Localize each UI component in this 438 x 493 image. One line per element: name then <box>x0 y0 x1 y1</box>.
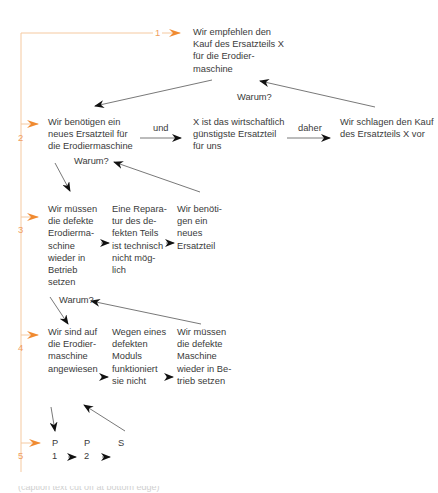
level-number-1: 1 <box>155 27 160 38</box>
question-l4: Warum? <box>59 294 94 306</box>
node-l3-restart: Wir müssen die defekte Erodierma- schine… <box>48 203 97 288</box>
caption-clipped: (caption text cut off at bottom edge) <box>18 486 398 492</box>
level-number-2: 2 <box>18 132 23 143</box>
connector-und: und <box>153 123 169 133</box>
node-l2-conclusion: Wir schlagen den Kauf des Ersatzteils X … <box>340 116 434 140</box>
node-l5-p1: P 1 <box>52 437 58 463</box>
level-number-5: 5 <box>18 450 23 461</box>
node-l2-need: Wir benötigen ein neues Ersatzteil für d… <box>48 116 133 153</box>
level-number-4: 4 <box>18 342 23 353</box>
node-l1-recommendation: Wir empfehlen den Kauf des Ersatzteils X… <box>193 26 284 75</box>
node-l5-p2: P 2 <box>84 437 90 463</box>
node-l4-dependent: Wir sind auf die Erodier- maschine angew… <box>48 326 98 375</box>
level-number-3: 3 <box>18 224 23 235</box>
node-l5-s: S <box>118 437 124 450</box>
caption-text: (caption text cut off at bottom edge) <box>18 486 398 492</box>
node-l4-defective-module: Wegen eines defekten Moduls funktioniert… <box>112 326 166 387</box>
node-l3-repair-impossible: Eine Repara- tur des de- fekten Teils is… <box>112 203 167 276</box>
connector-daher: daher <box>298 123 322 133</box>
question-l3: Warum? <box>74 155 109 167</box>
node-l2-cheapest: X ist das wirtschaftlich günstigste Ersa… <box>193 116 284 153</box>
question-l2: Warum? <box>237 91 272 103</box>
node-l4-restart: Wir müssen die defekte Maschine wieder i… <box>177 326 231 387</box>
node-l3-need-part: Wir benöti- gen ein neues Ersatzteil <box>177 203 222 252</box>
